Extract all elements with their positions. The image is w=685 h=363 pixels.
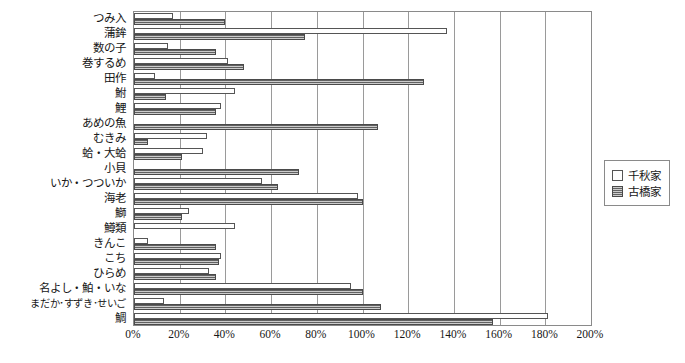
- bar-group: [134, 192, 591, 207]
- bar-group: [134, 12, 591, 27]
- bar-hatch: [134, 64, 244, 70]
- bar-hatch: [134, 169, 299, 175]
- category-label: 田作: [104, 71, 126, 86]
- category-label: むきみ: [93, 131, 126, 146]
- bar-hatch: [134, 79, 424, 85]
- category-label: 鯛: [115, 311, 126, 326]
- bar-group: [134, 267, 591, 282]
- bar-hatch: [134, 319, 493, 325]
- bar-group: [134, 177, 591, 192]
- legend-label: 千秋家: [628, 167, 661, 183]
- category-label: 鱒類: [104, 221, 126, 236]
- bar-hatch: [134, 49, 216, 55]
- category-label: 小貝: [104, 161, 126, 176]
- bar-hatch: [134, 244, 216, 250]
- category-label: ひらめ: [93, 266, 126, 281]
- bar-group: [134, 162, 591, 177]
- bar-group: [134, 207, 591, 222]
- bar-group: [134, 57, 591, 72]
- category-label: 鮒: [115, 86, 126, 101]
- bar-white: [134, 223, 235, 229]
- bar-hatch: [134, 214, 182, 220]
- legend-label: 古橋家: [628, 183, 661, 199]
- bar-group: [134, 27, 591, 42]
- bar-hatch: [134, 109, 216, 115]
- bar-hatch: [134, 34, 305, 40]
- category-label: 蛤・大蛤: [82, 146, 126, 161]
- bar-hatch: [134, 199, 363, 205]
- bar-hatch: [134, 274, 216, 280]
- x-axis-tick-labels: 0%20%40%60%80%100%120%140%160%180%200%: [133, 328, 592, 348]
- bar-hatch: [134, 184, 278, 190]
- category-label: 鰤: [115, 206, 126, 221]
- category-label: 鯉: [115, 101, 126, 116]
- bar-group: [134, 87, 591, 102]
- category-label: きんこ: [93, 236, 126, 251]
- category-label: あめの魚: [82, 116, 126, 131]
- x-tick-label: 200%: [560, 328, 620, 340]
- bar-group: [134, 222, 591, 237]
- bar-group: [134, 132, 591, 147]
- category-label: つみ入: [93, 11, 126, 26]
- bar-chart: つみ入蒲鉾数の子巻するめ田作鮒鯉あめの魚むきみ蛤・大蛤小貝いか・つついか海老鰤鱒…: [0, 0, 685, 363]
- legend-item: 古橋家: [612, 183, 661, 199]
- bar-group: [134, 252, 591, 267]
- bar-hatch: [134, 94, 166, 100]
- category-label: 蒲鉾: [104, 26, 126, 41]
- category-label: 海老: [104, 191, 126, 206]
- bar-group: [134, 237, 591, 252]
- category-axis-labels: つみ入蒲鉾数の子巻するめ田作鮒鯉あめの魚むきみ蛤・大蛤小貝いか・つついか海老鰤鱒…: [0, 11, 129, 326]
- bar-group: [134, 117, 591, 132]
- bar-hatch: [134, 289, 363, 295]
- bar-hatch: [134, 139, 148, 145]
- category-label: 巻するめ: [82, 56, 126, 71]
- category-label: こち: [104, 251, 126, 266]
- bar-group: [134, 42, 591, 57]
- bars-layer: [134, 12, 591, 325]
- bar-group: [134, 282, 591, 297]
- legend-swatch-white: [612, 170, 623, 181]
- bar-hatch: [134, 304, 381, 310]
- category-label: 数の子: [93, 41, 126, 56]
- legend-swatch-hatched: [612, 186, 623, 197]
- bar-group: [134, 72, 591, 87]
- bar-group: [134, 297, 591, 312]
- bar-group: [134, 312, 591, 327]
- legend: 千秋家 古橋家: [604, 160, 670, 206]
- category-label: いか・つついか: [50, 176, 126, 191]
- bar-hatch: [134, 154, 182, 160]
- bar-group: [134, 102, 591, 117]
- bar-hatch: [134, 124, 378, 130]
- legend-item: 千秋家: [612, 167, 661, 183]
- category-label: 名よし・鮊・いな: [39, 281, 126, 296]
- bar-hatch: [134, 259, 219, 265]
- category-label: まだか･すずき･せいご: [30, 296, 126, 311]
- bar-group: [134, 147, 591, 162]
- plot-area: [133, 11, 592, 326]
- bar-hatch: [134, 19, 225, 25]
